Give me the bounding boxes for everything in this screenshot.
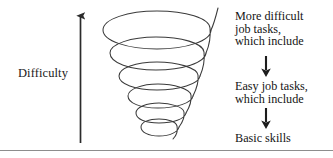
flow-block-top-line-1: More difficult: [235, 10, 304, 23]
bottom-divider: [0, 150, 333, 151]
flow-block-middle-line-1: Easy job tasks,: [235, 80, 308, 93]
flow-block-bottom-line-1: Basic skills: [235, 132, 291, 145]
down-arrow-icon: [258, 56, 274, 78]
flow-block-top-line-3: which include: [235, 35, 304, 48]
spiral-funnel: [103, 8, 218, 139]
flow-block-top: More difficult job tasks, which include: [235, 10, 304, 48]
flow-block-middle-line-2: which include: [235, 93, 308, 106]
spiral-tail: [211, 8, 218, 30]
spiral-loop-2: [110, 37, 206, 76]
figure-canvas: Difficulty More difficult job tasks, whi…: [0, 0, 333, 158]
down-arrow-icon: [258, 108, 274, 130]
spiral-loop-1: [103, 11, 211, 53]
difficulty-axis-label: Difficulty: [10, 66, 76, 81]
flow-block-middle: Easy job tasks, which include: [235, 80, 308, 105]
flow-block-bottom: Basic skills: [235, 132, 291, 145]
